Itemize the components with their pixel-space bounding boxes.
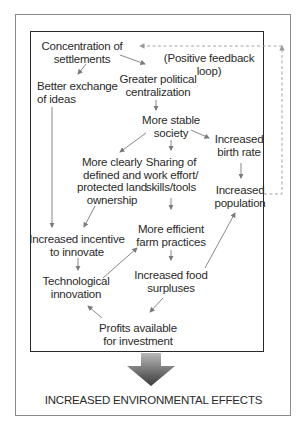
node-concentration-of-settlements: Concentration of settlements bbox=[41, 40, 122, 65]
node-technological-innovation: Technological innovation bbox=[42, 275, 109, 300]
node-increased-birth-rate: Increased birth rate bbox=[215, 133, 264, 158]
node-increased-incentive-to-innovate: Increased incentive to innovate bbox=[29, 233, 124, 258]
node-greater-political-centralization: Greater political centralization bbox=[119, 73, 196, 98]
node-more-efficient-farm-practices: More efficient farm practices bbox=[136, 223, 205, 248]
node-sharing-work-effort: Sharing of work effort/ skills/tools bbox=[144, 156, 198, 194]
node-better-exchange-of-ideas: Better exchange of ideas bbox=[37, 80, 118, 105]
outcome-label: INCREASED ENVIRONMENTAL EFFECTS bbox=[0, 394, 307, 406]
node-more-stable-society: More stable society bbox=[142, 114, 200, 139]
node-increased-population: Increased population bbox=[214, 184, 265, 209]
node-increased-food-surpluses: Increased food surpluses bbox=[134, 269, 207, 294]
node-land-ownership: More clearly defined and protected land … bbox=[77, 156, 147, 206]
node-profits-available-for-investment: Profits available for investment bbox=[99, 322, 177, 347]
big-down-arrow-icon bbox=[127, 353, 175, 386]
